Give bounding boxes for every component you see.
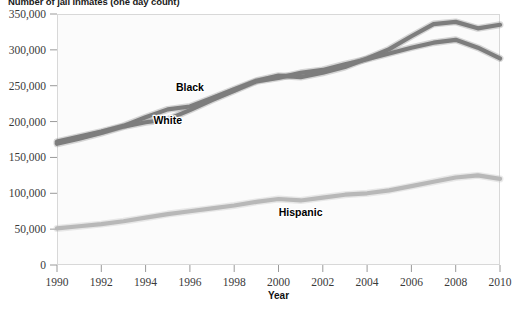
x-tick-label: 2004 [356, 276, 379, 288]
y-tick-label: 50,000 [14, 223, 46, 236]
y-tick-label: 250,000 [9, 80, 47, 93]
series-label-hispanic: Hispanic [279, 206, 323, 218]
series-label-black: Black [176, 81, 204, 93]
x-tick-label: 2006 [400, 276, 423, 288]
x-axis-title: Year [268, 290, 289, 301]
series-label-white: White [153, 114, 182, 126]
x-tick-label: 1998 [223, 276, 246, 288]
chart-title: Number of jail inmates (one day count) [8, 0, 179, 7]
y-tick-label: 150,000 [9, 151, 47, 164]
chart-canvas: 050,000100,000150,000200,000250,000300,0… [0, 0, 520, 316]
x-tick-label: 1996 [178, 276, 201, 288]
x-tick-label: 2008 [444, 276, 467, 288]
x-tick-label: 2002 [311, 276, 334, 288]
y-axis: 050,000100,000150,000200,000250,000300,0… [9, 8, 57, 271]
x-tick-label: 1994 [134, 276, 157, 288]
y-tick-label: 350,000 [9, 8, 47, 21]
y-tick-label: 200,000 [9, 116, 47, 129]
x-tick-label: 1990 [46, 276, 69, 288]
plot-background [57, 14, 500, 265]
x-tick-label: 1992 [90, 276, 113, 288]
jail-inmates-line-chart: Number of jail inmates (one day count) 0… [0, 0, 520, 316]
x-axis: 1990199219941996199820002002200420062008… [46, 265, 512, 288]
y-tick-label: 100,000 [9, 187, 47, 200]
x-tick-label: 2010 [489, 276, 512, 288]
y-tick-label: 0 [40, 259, 46, 271]
x-tick-label: 2000 [267, 276, 290, 288]
y-tick-label: 300,000 [9, 44, 47, 57]
